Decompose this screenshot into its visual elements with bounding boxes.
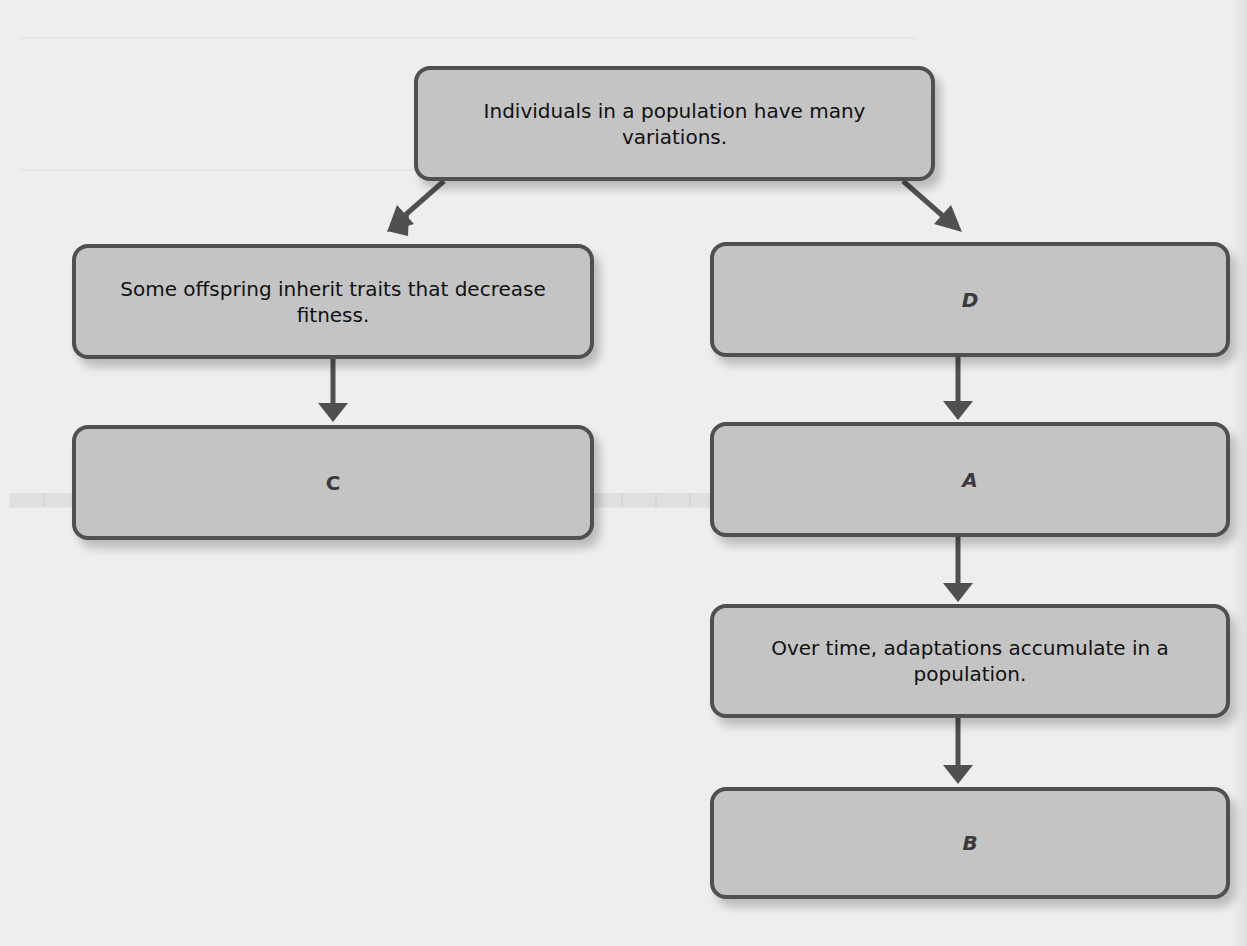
node-d-blank: D xyxy=(710,242,1230,357)
node-decrease-fitness: Some offspring inherit traits that decre… xyxy=(72,244,594,359)
background-bleed-text: ▁▁▁▁▁▁▁▁▁▁▁▁▁▁▁▁▁▁▁▁▁▁▁▁▁▁▁▁▁▁▁▁▁▁▁▁▁▁▁▁… xyxy=(20,18,916,40)
arrow-left1-to-left2 xyxy=(318,359,348,422)
arrow-top-to-left xyxy=(387,181,444,236)
node-variations: Individuals in a population have many va… xyxy=(414,66,935,181)
node-adaptations-accumulate: Over time, adaptations accumulate in a p… xyxy=(710,604,1230,718)
node-variations-text: Individuals in a population have many va… xyxy=(448,98,901,150)
node-b-blank: B xyxy=(710,787,1230,899)
page-gutter-shadow xyxy=(1233,0,1247,946)
arrow-right1-to-right2 xyxy=(943,357,973,420)
arrow-right3-to-right4 xyxy=(943,718,973,784)
node-adaptations-accumulate-text: Over time, adaptations accumulate in a p… xyxy=(744,635,1196,687)
node-d-label: D xyxy=(962,287,979,313)
node-a-blank: A xyxy=(710,422,1230,537)
arrow-right2-to-right3 xyxy=(943,537,973,602)
node-b-label: B xyxy=(962,830,977,856)
node-a-label: A xyxy=(962,467,977,493)
arrow-top-to-right xyxy=(903,181,962,232)
node-c-label: C xyxy=(326,470,341,496)
node-c-blank: C xyxy=(72,425,594,540)
node-decrease-fitness-text: Some offspring inherit traits that decre… xyxy=(106,276,560,328)
